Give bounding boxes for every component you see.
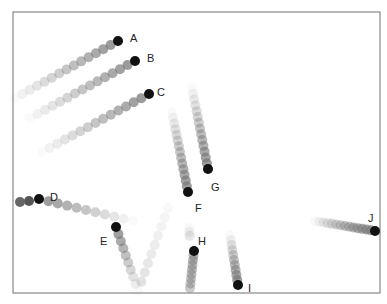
object-head-b [130,56,140,66]
trail-dot [109,212,119,222]
object-head-e [111,222,121,232]
object-head-f [183,187,193,197]
trail-dot [185,231,195,241]
trail-dot [150,240,160,250]
trail-h-up [184,223,195,241]
object-label-j: J [368,212,374,224]
trail-dot [160,212,170,222]
trail-dot [140,268,150,278]
trail-dot [119,214,129,224]
object-label-f: F [195,202,202,214]
trail-dot [24,196,34,206]
trail-dot [163,203,173,213]
trail-dot [72,203,82,213]
object-head-d [34,194,44,204]
object-label-b: B [147,52,154,64]
trail-dot [90,207,100,217]
trail-dot [15,197,25,207]
trail-dot [128,216,138,226]
object-label-a: A [130,32,138,44]
trail-dot [136,277,146,287]
trail-dot [81,205,91,215]
object-label-c: C [157,86,165,98]
object-label-e: E [100,235,107,247]
trail-dot [146,249,156,259]
object-label-i: I [248,282,251,294]
motion-diagram: ABCDEFGHIJ [0,0,387,304]
trail-dot [153,231,163,241]
object-head-g [203,164,213,174]
object-label-g: G [211,181,220,193]
object-head-i [233,280,243,290]
trail-dot [143,258,153,268]
trail-dot [156,221,166,231]
object-head-a [113,36,123,46]
object-head-j [370,226,380,236]
object-head-c [144,89,154,99]
object-head-h [189,246,199,256]
object-label-d: D [50,191,58,203]
object-label-h: H [198,235,206,247]
trail-dot [62,201,72,211]
trail-dot [100,209,110,219]
